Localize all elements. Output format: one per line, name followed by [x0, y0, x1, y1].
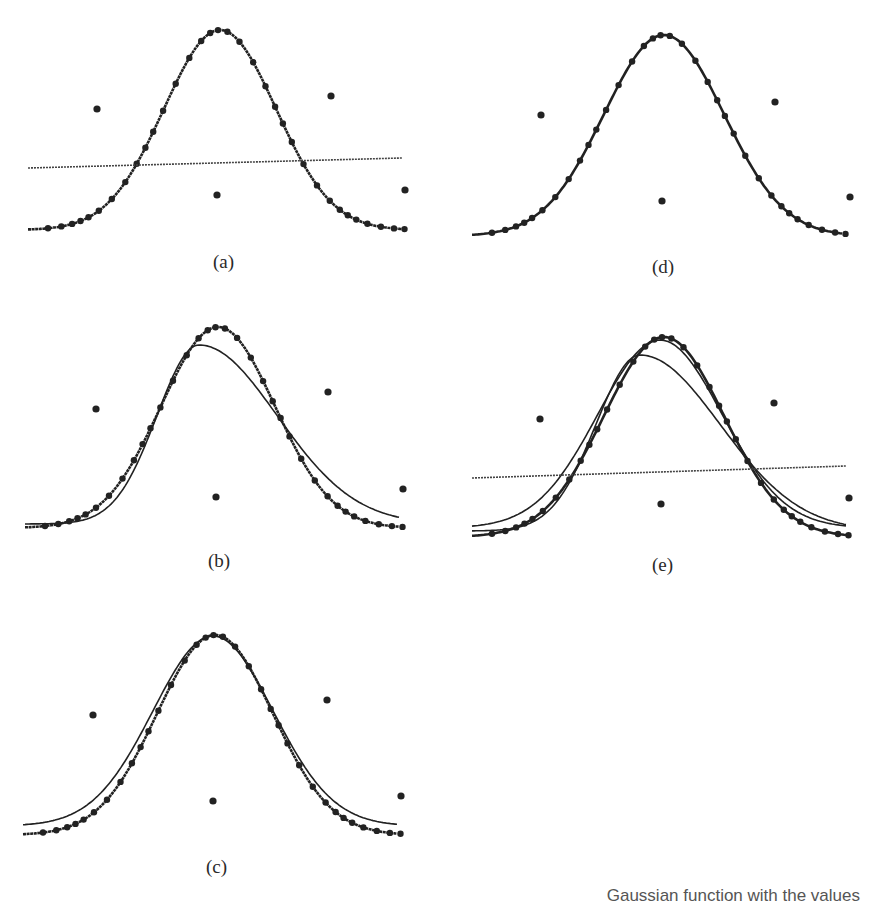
- sample-point-marker: [641, 43, 647, 49]
- sample-point-marker: [173, 81, 179, 87]
- sample-point-marker: [91, 809, 97, 815]
- sample-point-marker: [215, 27, 221, 33]
- sample-point-marker: [714, 97, 720, 103]
- sample-point-marker: [314, 182, 320, 188]
- sample-point-marker: [327, 198, 333, 204]
- sample-point-marker: [160, 108, 166, 114]
- sample-point-marker: [207, 30, 213, 36]
- sample-point-marker: [679, 41, 685, 47]
- sample-point-marker: [539, 207, 545, 213]
- panel-label: (c): [206, 856, 227, 878]
- sample-point-marker: [224, 29, 230, 35]
- panel-b: (b): [25, 324, 407, 572]
- sample-point-marker: [808, 524, 814, 530]
- gaussian-fit-2-curve: [472, 340, 846, 526]
- flat-fit-curve: [472, 466, 846, 478]
- sample-point-marker: [387, 830, 393, 836]
- sample-point-marker: [822, 528, 828, 534]
- sample-point-marker: [93, 505, 99, 511]
- panel-e: (e): [472, 334, 853, 576]
- sample-point-marker: [513, 223, 519, 229]
- sample-point-marker: [82, 511, 88, 517]
- sample-point-marker: [262, 83, 268, 89]
- sample-point-marker: [529, 215, 535, 221]
- outlier-point-marker: [537, 111, 544, 118]
- sample-point-marker: [69, 221, 75, 227]
- sample-point-marker: [667, 33, 673, 39]
- skewed-fit-curve: [25, 345, 399, 524]
- sample-point-marker: [389, 523, 395, 529]
- sample-point-marker: [778, 203, 784, 209]
- sample-point-marker: [835, 531, 841, 537]
- outlier-point-marker: [92, 405, 99, 412]
- outlier-point-marker: [397, 792, 404, 799]
- outlier-point-marker: [213, 191, 220, 198]
- panel-label: (b): [208, 550, 230, 572]
- sample-point-marker: [657, 32, 663, 38]
- sample-point-marker: [289, 139, 295, 145]
- sample-point-marker: [272, 104, 278, 110]
- panel-label: (d): [652, 256, 674, 278]
- sample-point-marker: [134, 161, 140, 167]
- sample-point-marker: [205, 327, 211, 333]
- sample-point-marker: [236, 39, 242, 45]
- sample-point-marker: [310, 784, 316, 790]
- figure-caption-fragment: Gaussian function with the values: [0, 886, 872, 905]
- gaussian-fit-curve: [23, 635, 397, 834]
- sample-point-marker: [680, 344, 686, 350]
- outlier-point-marker: [209, 797, 216, 804]
- panel-label: (e): [652, 554, 673, 576]
- sample-point-marker: [64, 824, 70, 830]
- sample-point-marker: [260, 378, 266, 384]
- sample-point-marker: [131, 457, 137, 463]
- sample-point-marker: [399, 524, 405, 530]
- sample-point-marker: [362, 518, 368, 524]
- sample-point-marker: [80, 816, 86, 822]
- sample-point-marker: [248, 354, 254, 360]
- sample-point-marker: [742, 153, 748, 159]
- sample-point-marker: [832, 229, 838, 235]
- sample-point-marker: [186, 55, 192, 61]
- sample-point-marker: [250, 59, 256, 65]
- sample-point-marker: [552, 194, 558, 200]
- sample-point-marker: [45, 225, 51, 231]
- sample-point-marker: [234, 335, 240, 341]
- outlier-point-marker: [770, 399, 777, 406]
- panel-d: (d): [472, 32, 854, 278]
- gaussian-fit-curve: [25, 327, 399, 527]
- sample-point-marker: [322, 799, 328, 805]
- sample-point-marker: [298, 456, 304, 462]
- sample-point-marker: [794, 216, 800, 222]
- sample-point-marker: [349, 820, 355, 826]
- panel-c: (c): [23, 632, 405, 878]
- sample-point-marker: [374, 828, 380, 834]
- sample-point-marker: [603, 107, 609, 113]
- sample-point-marker: [489, 531, 495, 537]
- sample-point-marker: [312, 477, 318, 483]
- outlier-point-marker: [327, 92, 334, 99]
- outlier-point-marker: [324, 388, 331, 395]
- outlier-point-marker: [845, 494, 852, 501]
- outlier-point-marker: [658, 197, 665, 204]
- sample-point-marker: [155, 708, 161, 714]
- sample-point-marker: [705, 79, 711, 85]
- sample-point-marker: [364, 221, 370, 227]
- sample-point-marker: [109, 196, 115, 202]
- sample-point-marker: [378, 224, 384, 230]
- gaussian-fit-curve: [28, 30, 402, 229]
- sample-point-marker: [629, 58, 635, 64]
- sample-point-marker: [692, 58, 698, 64]
- sample-point-marker: [198, 38, 204, 44]
- sample-point-marker: [195, 335, 201, 341]
- outlier-point-marker: [771, 98, 778, 105]
- sample-point-marker: [756, 175, 762, 181]
- sample-point-marker: [617, 382, 623, 388]
- sample-point-marker: [332, 809, 338, 815]
- sample-point-marker: [845, 532, 851, 538]
- sample-point-marker: [129, 760, 135, 766]
- sample-point-marker: [668, 335, 674, 341]
- outlier-point-marker: [846, 193, 853, 200]
- sample-point-marker: [222, 325, 228, 331]
- sample-point-marker: [604, 406, 610, 412]
- outlier-point-marker: [323, 696, 330, 703]
